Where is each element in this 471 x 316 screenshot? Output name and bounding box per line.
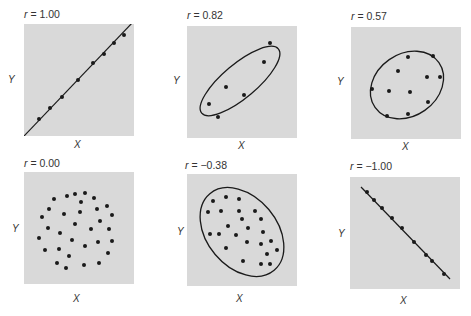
panel-4-title: r = 0.00 [24,157,60,169]
data-point [219,209,223,213]
data-point [426,100,430,104]
data-point [112,41,116,45]
data-point [89,227,93,231]
panel-2-plot [187,26,297,138]
scatter-plot [187,174,297,286]
data-point [242,93,246,97]
data-point [122,33,126,37]
data-point [83,191,87,195]
data-point [73,222,77,226]
data-point [64,266,68,270]
plot-background [187,26,297,138]
data-point [105,204,109,208]
data-point [240,217,244,221]
data-point [211,199,215,203]
data-point [406,55,410,59]
data-point [237,209,241,213]
data-point [46,226,50,230]
data-point [424,253,428,257]
data-point [268,41,272,45]
data-point [246,226,250,230]
panel-2-title: r = 0.82 [187,9,223,21]
data-point [216,115,220,119]
data-point [97,261,101,265]
data-point [425,75,429,79]
data-point [442,272,446,276]
r-value: = 0.57 [355,10,387,22]
data-point [208,232,212,236]
scatter-plot [187,26,297,138]
data-point [234,233,238,237]
data-point [58,231,62,235]
data-point [365,190,369,194]
data-point [37,117,41,121]
panel-5-plot [187,174,297,286]
data-point [237,197,241,201]
data-point [259,242,263,246]
r-value: = −1.00 [354,160,393,172]
data-point [110,213,114,217]
data-point [245,240,249,244]
data-point [96,240,100,244]
data-point [206,210,210,214]
data-point [372,198,376,202]
data-point [259,217,263,221]
r-value: = 1.00 [28,8,60,20]
data-point [261,230,265,234]
scatter-plot [351,27,461,139]
data-point [65,194,69,198]
data-point [79,200,83,204]
panel-1-y-label: Y [8,74,15,85]
data-point [380,206,384,210]
data-point [95,207,99,211]
r-value: = 0.82 [191,9,223,21]
data-point [390,216,394,220]
plot-background [24,172,134,284]
data-point [387,89,391,93]
data-point [55,261,59,265]
scatter-plot [350,177,460,289]
panel-3-x-label: X [402,141,409,152]
data-point [40,215,44,219]
data-point [385,114,389,118]
data-point [37,236,41,240]
panel-6-x-label: X [400,295,407,306]
data-point [98,219,102,223]
panel-3-plot [351,27,461,139]
data-point [48,106,52,110]
panel-1-plot [24,24,134,136]
data-point [73,192,77,196]
data-point [92,196,96,200]
data-point [224,246,228,250]
data-point [67,254,71,258]
data-point [60,95,64,99]
panel-6-plot [350,177,460,289]
data-point [224,195,228,199]
data-point [207,102,211,106]
data-point [370,87,374,91]
data-point [70,238,74,242]
data-point [107,227,111,231]
data-point [82,263,86,267]
data-point [262,60,266,64]
data-point [47,207,51,211]
data-point [430,259,434,263]
data-point [226,224,230,228]
data-point [400,226,404,230]
panel-2-x-label: X [238,140,245,151]
panel-1-title: r = 1.00 [24,8,60,20]
data-point [265,252,269,256]
data-point [217,232,221,236]
data-point [253,209,257,213]
panel-4-plot [24,172,134,284]
data-point [408,90,412,94]
data-point [438,75,442,79]
data-point [259,262,263,266]
data-point [76,78,80,82]
panel-4-y-label: Y [12,223,19,234]
plot-background [351,27,461,139]
data-point [110,239,114,243]
data-point [52,197,56,201]
panel-1-x-label: X [74,139,81,150]
panel-2-y-label: Y [173,75,180,86]
